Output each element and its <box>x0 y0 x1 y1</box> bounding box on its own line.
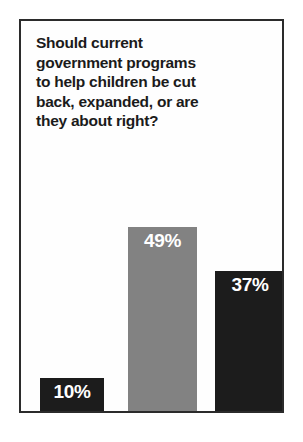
bar-value-expanded: 49% <box>128 230 197 252</box>
bar-cut-back[interactable]: 10% <box>40 378 104 411</box>
chart-frame: Should current government programs to he… <box>19 19 284 413</box>
bar-column-about-right: 37% About right <box>215 84 284 411</box>
bar-column-cut-back: 10% Cut back <box>40 84 104 411</box>
bar-value-cut-back: 10% <box>40 381 104 403</box>
bar-column-expanded: 49% Expanded <box>128 84 197 411</box>
bar-value-about-right: 37% <box>215 274 284 296</box>
bar-about-right[interactable]: 37% <box>215 271 284 411</box>
plot-area: 10% Cut back 49% Expanded 37% About righ… <box>21 21 282 411</box>
bar-expanded[interactable]: 49% <box>128 227 197 411</box>
